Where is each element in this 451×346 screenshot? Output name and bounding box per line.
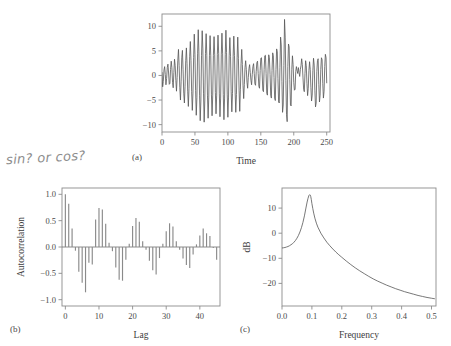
x-tick-label: 50 xyxy=(191,137,200,147)
panel-a-svg: 050100150200250−10−50510Time xyxy=(124,8,340,168)
y-axis-title: dB xyxy=(242,241,252,252)
x-axis-title: Time xyxy=(236,156,256,166)
y-tick-label: −10 xyxy=(143,120,156,130)
y-tick-label: 5 xyxy=(152,46,156,56)
y-tick-label: −1.0 xyxy=(41,295,56,305)
panel-a-tag: (a) xyxy=(132,152,142,162)
y-tick-label: 0.0 xyxy=(45,242,56,252)
panel-c-spectrum: 0.00.10.20.30.40.5−20−10010FrequencydB xyxy=(236,182,448,342)
plot-frame xyxy=(282,188,436,306)
y-axis-title: Autocorrelation xyxy=(16,217,26,277)
x-tick-label: 0.5 xyxy=(426,311,437,321)
y-tick-label: 1.0 xyxy=(45,189,56,199)
x-tick-label: 10 xyxy=(95,311,104,321)
panel-c-tag: (c) xyxy=(240,324,250,334)
handwritten-annotation: sin? or cos? xyxy=(6,148,86,167)
x-tick-label: 0.2 xyxy=(336,311,347,321)
x-tick-label: 200 xyxy=(287,137,300,147)
y-tick-label: −5 xyxy=(147,95,156,105)
x-tick-label: 0 xyxy=(63,311,67,321)
x-tick-label: 0.4 xyxy=(396,311,407,321)
x-axis-title: Lag xyxy=(134,330,149,340)
x-tick-label: 250 xyxy=(320,137,333,147)
panel-a-timeseries: 050100150200250−10−50510Time xyxy=(124,8,340,168)
figure-title-remnant xyxy=(150,0,310,7)
x-tick-label: 0.0 xyxy=(277,311,288,321)
y-tick-label: 10 xyxy=(268,203,277,213)
x-tick-label: 30 xyxy=(162,311,171,321)
panel-c-svg: 0.00.10.20.30.40.5−20−10010FrequencydB xyxy=(236,182,448,342)
x-tick-label: 150 xyxy=(254,137,267,147)
y-tick-label: 0.5 xyxy=(45,216,56,226)
panel-b-svg: 010203040−1.0−0.50.00.51.0LagAutocorrela… xyxy=(8,182,230,342)
y-tick-label: 0 xyxy=(272,228,276,238)
y-tick-label: 10 xyxy=(148,21,157,31)
x-tick-label: 100 xyxy=(222,137,235,147)
x-tick-label: 40 xyxy=(196,311,205,321)
y-tick-label: −10 xyxy=(263,253,276,263)
y-tick-label: −20 xyxy=(263,278,276,288)
x-tick-label: 0.3 xyxy=(366,311,377,321)
x-tick-label: 0.1 xyxy=(307,311,318,321)
x-tick-label: 0 xyxy=(160,137,164,147)
y-tick-label: −0.5 xyxy=(41,268,56,278)
panel-b-tag: (b) xyxy=(10,324,21,334)
x-tick-label: 20 xyxy=(128,311,137,321)
y-tick-label: 0 xyxy=(152,70,156,80)
x-axis-title: Frequency xyxy=(339,330,379,340)
panel-b-autocorrelation: 010203040−1.0−0.50.00.51.0LagAutocorrela… xyxy=(8,182,230,342)
